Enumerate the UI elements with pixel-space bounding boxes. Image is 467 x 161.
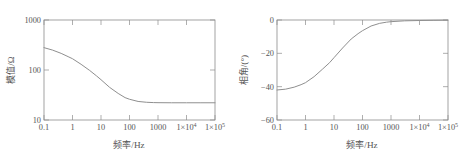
phase-x-ticks <box>277 20 448 120</box>
phase-y-tick-labels: 0 −20 −40 −60 <box>261 16 274 125</box>
magnitude-x-axis-title: 频率/Hz <box>113 139 144 150</box>
x-tick-label: 1 <box>70 123 74 132</box>
x-tick-label: 100 <box>123 123 135 132</box>
phase-x-tick-labels: 0.1 1 10 100 1000 1×104 1×105 <box>272 122 458 132</box>
y-tick-label: 10 <box>33 116 41 125</box>
x-tick-label: 100 <box>356 123 368 132</box>
phase-chart-svg: 0.1 1 10 100 1000 1×104 1×105 0 −20 −40 … <box>233 0 466 161</box>
magnitude-plot-frame <box>44 20 215 120</box>
magnitude-chart-svg: 0.1 1 10 100 1000 1×104 1×105 1000 100 1… <box>0 0 233 161</box>
x-tick-label: 1×105 <box>438 122 458 132</box>
x-tick-label: 1000 <box>150 123 167 132</box>
phase-y-ticks <box>277 20 448 120</box>
x-tick-label: 1×104 <box>409 122 429 132</box>
magnitude-panel: 0.1 1 10 100 1000 1×104 1×105 1000 100 1… <box>0 0 233 161</box>
x-tick-label: 1×105 <box>205 122 225 132</box>
phase-curve <box>277 20 448 90</box>
y-tick-label: −40 <box>261 83 274 92</box>
x-tick-label: 1 <box>303 123 307 132</box>
magnitude-y-ticks <box>44 20 215 120</box>
magnitude-x-tick-labels: 0.1 1 10 100 1000 1×104 1×105 <box>39 122 225 132</box>
magnitude-curve <box>44 48 215 103</box>
phase-x-axis-title: 频率/Hz <box>346 139 377 150</box>
y-tick-label: 0 <box>270 16 274 25</box>
magnitude-y-axis-title: 模值/Ω <box>5 56 16 84</box>
x-tick-label: 1×104 <box>176 122 196 132</box>
phase-plot-frame <box>277 20 448 120</box>
magnitude-x-ticks <box>44 20 215 120</box>
bode-plot-figure-pair: 0.1 1 10 100 1000 1×104 1×105 1000 100 1… <box>0 0 467 161</box>
x-tick-label: 10 <box>97 123 105 132</box>
y-tick-label: 100 <box>29 66 41 75</box>
y-tick-label: 1000 <box>24 16 41 25</box>
phase-y-axis-title: 相角/(°) <box>238 55 249 85</box>
x-tick-label: 1000 <box>383 123 400 132</box>
x-tick-label: 10 <box>330 123 338 132</box>
phase-panel: 0.1 1 10 100 1000 1×104 1×105 0 −20 −40 … <box>233 0 466 161</box>
magnitude-y-tick-labels: 1000 100 10 <box>24 16 41 125</box>
y-tick-label: −60 <box>261 116 274 125</box>
y-tick-label: −20 <box>261 49 274 58</box>
